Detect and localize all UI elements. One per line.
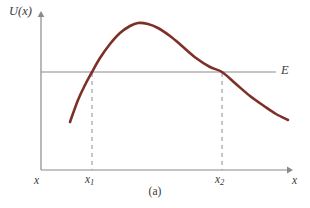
x-axis-label-right: x [292, 175, 297, 187]
y-axis-label: U(x) [9, 5, 32, 18]
x-axis-arrowhead [287, 166, 293, 173]
energy-level-label: E [281, 64, 289, 77]
y-axis-arrowhead [38, 11, 45, 17]
plot-canvas [0, 0, 310, 208]
turning-point-label-x2: x2 [215, 174, 224, 187]
x-axis-label-left: x [34, 175, 39, 187]
turning-point-label-x1: x1 [85, 174, 94, 187]
potential-energy-diagram: U(x) x x x1 x2 E (a) [0, 0, 310, 208]
figure-caption: (a) [0, 186, 310, 198]
